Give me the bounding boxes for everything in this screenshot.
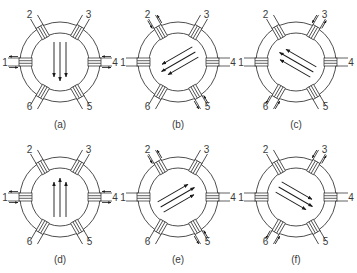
slot-label: 6 bbox=[263, 101, 269, 112]
slot-label: 2 bbox=[27, 9, 33, 20]
slot-label: 6 bbox=[263, 236, 269, 247]
lead-wire bbox=[37, 15, 43, 25]
slot-label: 6 bbox=[27, 236, 33, 247]
slot-label: 2 bbox=[27, 144, 33, 155]
coil-block bbox=[36, 84, 49, 99]
lead-wire bbox=[313, 99, 319, 109]
coil-block bbox=[189, 24, 202, 39]
magnetic-field-arrows-icon bbox=[54, 178, 66, 217]
coil-block bbox=[36, 219, 49, 234]
stator-panel-c: 123456(c) bbox=[238, 9, 354, 130]
lead-wire bbox=[201, 154, 207, 164]
slot-label: 4 bbox=[348, 57, 354, 68]
slot-label: 2 bbox=[263, 9, 269, 20]
coil-block bbox=[189, 159, 202, 174]
slot-1 bbox=[126, 58, 150, 66]
slot-label: 1 bbox=[120, 192, 126, 203]
lead-wire bbox=[201, 19, 207, 29]
panel-caption: (a) bbox=[54, 119, 66, 130]
slot-label: 1 bbox=[2, 57, 8, 68]
coil-block bbox=[324, 58, 337, 66]
slot-4 bbox=[206, 58, 230, 66]
slot-2 bbox=[267, 150, 286, 175]
slot-2 bbox=[147, 149, 169, 175]
coil-block bbox=[36, 159, 49, 174]
coil-block bbox=[272, 84, 285, 99]
lead-wire bbox=[31, 19, 37, 29]
lead-wire bbox=[77, 15, 83, 25]
slot-label: 6 bbox=[27, 101, 33, 112]
stator-panel-f: 123456(f) bbox=[238, 144, 354, 265]
slot-label: 3 bbox=[86, 9, 92, 20]
coil-block bbox=[71, 159, 84, 174]
slot-label: 3 bbox=[322, 9, 328, 20]
slot-4 bbox=[324, 193, 348, 201]
lead-wire bbox=[37, 99, 43, 109]
slot-label: 3 bbox=[322, 144, 328, 155]
slot-4 bbox=[88, 192, 112, 203]
slot-label: 2 bbox=[263, 144, 269, 155]
coil-block bbox=[255, 58, 268, 66]
slot-label: 5 bbox=[205, 236, 211, 247]
coil-block bbox=[88, 58, 101, 66]
slot-label: 4 bbox=[230, 57, 236, 68]
slot-2 bbox=[31, 150, 50, 175]
coil-block bbox=[36, 24, 49, 39]
lead-wire bbox=[37, 234, 43, 244]
slot-6 bbox=[31, 219, 50, 244]
coil-block bbox=[19, 58, 32, 66]
slot-label: 1 bbox=[120, 57, 126, 68]
coil-block bbox=[71, 24, 84, 39]
slot-label: 3 bbox=[204, 144, 210, 155]
panel-caption: (b) bbox=[172, 119, 184, 130]
coil-block bbox=[307, 84, 320, 99]
slot-1 bbox=[126, 193, 150, 201]
slot-label: 1 bbox=[238, 57, 244, 68]
slot-1 bbox=[244, 58, 268, 66]
magnetic-field-arrows-icon bbox=[54, 42, 66, 81]
coil-block bbox=[255, 193, 268, 201]
stator-panel-d: 123456(d) bbox=[2, 144, 118, 265]
lead-wire bbox=[77, 234, 83, 244]
panel-caption: (f) bbox=[291, 254, 300, 265]
slot-1 bbox=[244, 193, 268, 201]
coil-block bbox=[137, 193, 150, 201]
slot-label: 6 bbox=[145, 101, 151, 112]
coil-block bbox=[307, 219, 320, 234]
lead-wire bbox=[273, 150, 279, 160]
slot-4 bbox=[206, 193, 230, 201]
diagram-canvas: 123456(a)123456(b)123456(c)123456(d)1234… bbox=[0, 0, 357, 273]
slot-6 bbox=[265, 218, 287, 244]
slot-2 bbox=[31, 15, 50, 40]
slot-6 bbox=[31, 84, 50, 109]
coil-block bbox=[19, 193, 32, 201]
slot-label: 4 bbox=[112, 57, 118, 68]
coil-block bbox=[272, 159, 285, 174]
lead-wire bbox=[83, 154, 89, 164]
stator-panel-e: 123456(e) bbox=[120, 144, 236, 265]
stator-panel-a: 123456(a) bbox=[2, 9, 118, 130]
coil-block bbox=[272, 24, 285, 39]
slot-1 bbox=[8, 192, 32, 203]
lead-wire bbox=[83, 19, 89, 29]
panel-caption: (e) bbox=[172, 254, 184, 265]
slot-label: 5 bbox=[323, 236, 329, 247]
slot-label: 5 bbox=[87, 236, 93, 247]
magnetic-field-arrows-icon bbox=[276, 182, 316, 212]
lead-wire bbox=[155, 234, 161, 244]
stator-panel-b: 123456(b) bbox=[120, 9, 236, 130]
slot-4 bbox=[324, 58, 348, 66]
coil-block bbox=[206, 193, 219, 201]
coil-block bbox=[324, 193, 337, 201]
coil-block bbox=[189, 219, 202, 234]
coil-block bbox=[71, 219, 84, 234]
slot-label: 1 bbox=[2, 192, 8, 203]
coil-block bbox=[137, 58, 150, 66]
lead-wire bbox=[273, 15, 279, 25]
lead-wire bbox=[267, 19, 273, 29]
slot-6 bbox=[149, 219, 168, 244]
lead-wire bbox=[195, 150, 201, 160]
lead-wire bbox=[313, 234, 319, 244]
slot-2 bbox=[267, 15, 286, 40]
slot-label: 3 bbox=[204, 9, 210, 20]
